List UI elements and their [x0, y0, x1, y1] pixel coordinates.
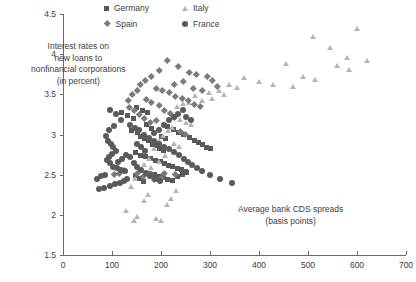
x-tick	[406, 251, 407, 255]
y-tick-label: 4.5	[0, 10, 56, 19]
data-point-italy	[192, 93, 198, 98]
data-point-italy	[241, 75, 247, 80]
data-point-italy	[156, 159, 162, 164]
chart-legend: Germany Italy Spain France	[104, 4, 272, 28]
data-point-france	[113, 111, 119, 117]
data-point-italy	[209, 96, 215, 101]
data-point-germany	[184, 170, 189, 175]
data-point-france	[180, 107, 186, 113]
legend-label-germany: Germany	[114, 4, 149, 13]
data-point-italy	[141, 198, 147, 203]
italy-marker-icon	[182, 6, 188, 11]
data-point-germany	[145, 110, 150, 115]
data-point-italy	[162, 153, 168, 158]
data-point-france	[157, 178, 163, 184]
x-tick-label: 400	[252, 261, 266, 270]
x-tick-label: 600	[350, 261, 364, 270]
data-point-spain	[156, 67, 162, 73]
y-tick	[60, 14, 64, 15]
data-point-france	[156, 127, 162, 133]
data-point-spain	[159, 87, 165, 93]
data-point-germany	[119, 110, 124, 115]
data-point-italy	[234, 85, 240, 90]
y-tick-label: 3.5	[0, 90, 56, 99]
data-point-spain	[186, 69, 192, 75]
data-point-italy	[256, 79, 262, 84]
data-point-france	[142, 148, 148, 154]
x-tick	[259, 251, 260, 255]
data-point-italy	[164, 202, 170, 207]
data-point-italy	[226, 82, 232, 87]
x-tick	[112, 251, 113, 255]
data-point-italy	[145, 192, 151, 197]
data-point-italy	[165, 128, 171, 133]
y-tick-label: 2	[0, 211, 56, 220]
spain-marker-icon	[104, 21, 110, 27]
data-point-spain	[153, 117, 159, 123]
data-point-italy	[148, 165, 154, 170]
data-point-spain	[197, 103, 203, 109]
data-point-spain	[141, 115, 147, 121]
data-point-france	[217, 176, 223, 182]
data-point-france	[94, 176, 100, 182]
data-point-spain	[134, 87, 140, 93]
x-tick-label: 700	[399, 261, 413, 270]
data-point-italy	[300, 74, 306, 79]
data-point-italy	[128, 184, 134, 189]
data-point-france	[229, 180, 235, 186]
data-point-germany	[131, 116, 136, 121]
y-tick-label: 2.5	[0, 170, 56, 179]
data-point-italy	[290, 84, 296, 89]
data-point-france	[96, 186, 102, 192]
data-point-italy	[283, 61, 289, 66]
x-tick-label: 200	[154, 261, 168, 270]
y-tick	[60, 255, 64, 256]
data-point-france	[101, 185, 107, 191]
data-point-italy	[180, 101, 186, 106]
data-point-spain	[171, 81, 177, 87]
data-point-france	[127, 154, 133, 160]
data-point-spain	[142, 77, 148, 83]
data-point-italy	[176, 144, 182, 149]
y-tick-label: 3	[0, 130, 56, 139]
x-tick-label: 300	[203, 261, 217, 270]
data-point-italy	[173, 188, 179, 193]
data-point-france	[107, 183, 113, 189]
data-point-germany	[208, 146, 213, 151]
data-point-italy	[334, 63, 340, 68]
data-point-france	[207, 172, 213, 178]
data-point-italy	[146, 156, 152, 161]
x-tick-label: 500	[301, 261, 315, 270]
data-point-spain	[193, 71, 199, 77]
legend-label-spain: Spain	[116, 20, 138, 29]
data-point-italy	[312, 77, 318, 82]
data-point-germany	[125, 113, 130, 118]
x-tick-label: 100	[105, 261, 119, 270]
x-tick	[161, 251, 162, 255]
x-tick	[308, 251, 309, 255]
data-point-france	[199, 168, 205, 174]
data-point-italy	[123, 208, 129, 213]
data-point-spain	[148, 73, 154, 79]
data-point-italy	[310, 34, 316, 39]
legend-item-germany: Germany	[104, 4, 182, 13]
y-axis-annotation: Interest rates onnew loans tononfinancia…	[31, 41, 126, 87]
data-point-spain	[148, 99, 154, 105]
data-point-italy	[346, 67, 352, 72]
data-point-italy	[270, 82, 276, 87]
data-point-france	[122, 168, 128, 174]
data-point-spain	[166, 89, 172, 95]
france-marker-icon	[182, 21, 188, 27]
y-tick	[60, 94, 64, 95]
data-point-italy	[132, 176, 138, 181]
legend-item-italy: Italy	[182, 4, 272, 13]
scatter-chart: Germany Italy Spain France 0100200300400…	[0, 0, 416, 282]
data-point-spain	[180, 78, 186, 84]
data-point-italy	[327, 45, 333, 50]
data-point-italy	[206, 90, 212, 95]
data-point-italy	[158, 218, 164, 223]
x-tick	[357, 251, 358, 255]
data-point-italy	[151, 146, 157, 151]
data-point-france	[118, 117, 124, 123]
x-axis-line	[63, 255, 406, 256]
